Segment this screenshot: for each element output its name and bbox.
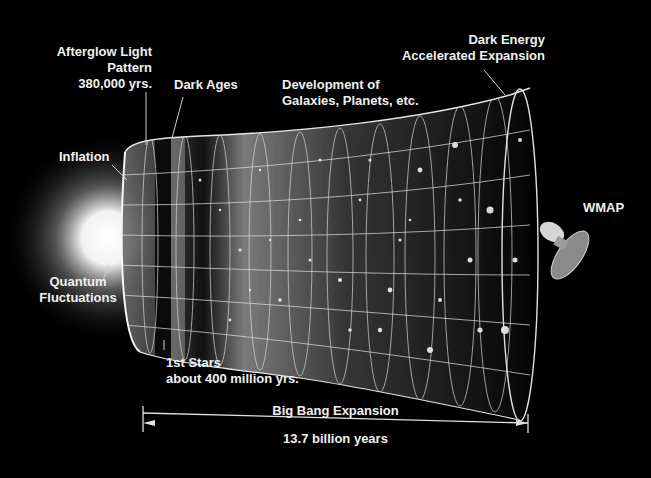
quantum-fluctuations-label: Quantum Fluctuations <box>34 274 122 306</box>
development-line-1: Development of <box>282 77 419 93</box>
wmap-text: WMAP <box>583 200 624 216</box>
big-bang-expansion-text: Big Bang Expansion <box>143 403 528 419</box>
duration-text: 13.7 billion years <box>143 431 528 447</box>
afterglow-line-2: Pattern <box>40 60 152 76</box>
quantum-line-1: Quantum <box>34 274 122 290</box>
timeline-bottom-label: 13.7 billion years <box>143 431 528 447</box>
dark-energy-line-2: Accelerated Expansion <box>390 48 545 64</box>
first-stars-label: 1st Stars about 400 million yrs. <box>166 355 299 387</box>
afterglow-line-1: Afterglow Light <box>40 44 152 60</box>
first-stars-line-1: 1st Stars <box>166 355 299 371</box>
dark-energy-line-1: Dark Energy <box>390 32 545 48</box>
inflation-label: Inflation <box>59 149 110 165</box>
big-bang-diagram: Afterglow Light Pattern 380,000 yrs. Dar… <box>0 0 651 478</box>
development-line-2: Galaxies, Planets, etc. <box>282 93 419 109</box>
wmap-satellite-icon <box>536 218 596 285</box>
dark-ages-text: Dark Ages <box>174 77 238 93</box>
afterglow-label: Afterglow Light Pattern 380,000 yrs. <box>40 44 152 92</box>
timeline-top-label: Big Bang Expansion <box>143 403 528 419</box>
inflation-text: Inflation <box>59 149 110 165</box>
quantum-line-2: Fluctuations <box>34 290 122 306</box>
afterglow-line-3: 380,000 yrs. <box>40 76 152 92</box>
first-stars-line-2: about 400 million yrs. <box>166 371 299 387</box>
wmap-label: WMAP <box>583 200 624 216</box>
dark-ages-label: Dark Ages <box>174 77 238 93</box>
dark-energy-label: Dark Energy Accelerated Expansion <box>390 32 545 64</box>
development-label: Development of Galaxies, Planets, etc. <box>282 77 419 109</box>
